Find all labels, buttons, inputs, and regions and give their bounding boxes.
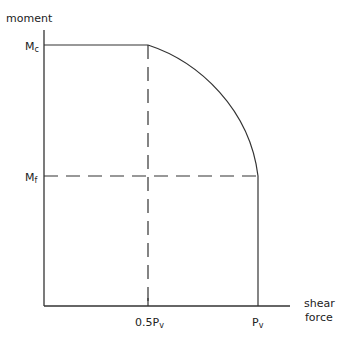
- mc-label: Mc: [25, 40, 39, 54]
- x-axis-label-line2: force: [305, 311, 333, 324]
- moment-shear-interaction-diagram: moment Mc Mf 0.5Pv Pv shear force: [0, 0, 344, 338]
- mf-label: Mf: [25, 171, 38, 185]
- y-axis-label: moment: [6, 12, 53, 25]
- pv-label: Pv: [252, 316, 264, 330]
- half-pv-label: 0.5Pv: [135, 316, 164, 330]
- interaction-curve: [148, 45, 258, 176]
- x-axis-label-line1: shear: [304, 297, 335, 310]
